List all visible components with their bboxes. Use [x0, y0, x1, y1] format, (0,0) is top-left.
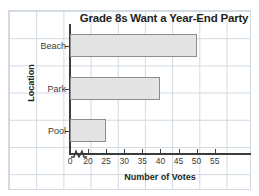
plot-area: Grade 8s Want a Year-End Party Beach Par… — [0, 0, 259, 196]
bar-chart-figure: Grade 8s Want a Year-End Party Beach Par… — [0, 0, 259, 196]
bar-beach — [70, 34, 197, 57]
x-tick-20 — [88, 149, 89, 154]
x-tick-50 — [197, 149, 198, 154]
x-tick-25 — [106, 149, 107, 154]
x-tick-label-40: 40 — [156, 156, 165, 166]
x-tick-40 — [160, 149, 161, 154]
x-axis-title: Number of Votes — [69, 172, 251, 182]
x-tick-label-35: 35 — [138, 156, 147, 166]
x-tick-35 — [142, 149, 143, 154]
x-tick-label-50: 50 — [192, 156, 201, 166]
x-tick-label-45: 45 — [174, 156, 183, 166]
x-tick-label-20: 20 — [83, 156, 92, 166]
bar-pool — [70, 119, 106, 142]
x-tick-45 — [179, 149, 180, 154]
x-tick-label-55: 55 — [210, 156, 219, 166]
x-tick-label-0: 0 — [68, 156, 73, 166]
y-axis-title: Location — [26, 48, 36, 118]
x-tick-0 — [70, 149, 71, 154]
x-tick-30 — [124, 149, 125, 154]
x-tick-55 — [215, 149, 216, 154]
bar-park — [70, 77, 160, 100]
category-label-pool: Pool — [18, 126, 66, 136]
x-tick-label-25: 25 — [101, 156, 110, 166]
chart-title: Grade 8s Want a Year-End Party — [76, 12, 252, 24]
x-tick-label-30: 30 — [119, 156, 128, 166]
